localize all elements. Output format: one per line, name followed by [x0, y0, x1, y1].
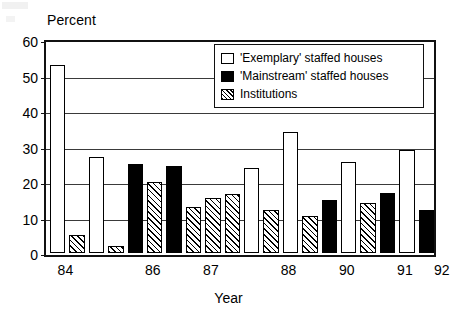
y-axis-tick-mark: [41, 184, 46, 185]
y-axis-tick-mark: [41, 113, 46, 114]
bar-mainstream: [380, 193, 396, 253]
chart-legend: 'Exemplary' staffed houses 'Mainstream' …: [214, 44, 424, 108]
bar-exemplary: [399, 150, 415, 253]
bar-institutions: [205, 198, 221, 253]
legend-item-label: Institutions: [240, 87, 297, 101]
bar-mainstream: [166, 166, 182, 253]
bar-institutions: [263, 210, 279, 253]
scan-artifact: [6, 16, 15, 22]
legend-item-label: 'Exemplary' staffed houses: [240, 51, 382, 65]
x-axis-tick-label: 92: [422, 262, 457, 278]
y-axis-tick-label: 40: [10, 106, 38, 120]
y-axis-tick-mark: [41, 255, 46, 256]
legend-item: 'Exemplary' staffed houses: [221, 49, 417, 67]
black-square-icon: [221, 71, 234, 82]
bar-institutions: [360, 203, 376, 253]
y-axis-tick-label: 20: [10, 177, 38, 191]
y-axis-tick-mark: [41, 220, 46, 221]
bar-mainstream: [419, 210, 435, 253]
scan-artifact: [2, 2, 28, 9]
y-axis-tick-label: 50: [10, 71, 38, 85]
x-axis-tick-label: 84: [45, 262, 85, 278]
bar-exemplary: [283, 132, 299, 253]
x-axis-tick-label: 88: [269, 262, 309, 278]
x-axis-tick-label: 87: [191, 262, 231, 278]
bar-institutions: [186, 207, 202, 253]
y-axis-tick-label: 0: [10, 248, 38, 262]
bar-institutions: [225, 194, 241, 253]
bar-exemplary: [89, 157, 105, 253]
bar-mainstream: [322, 200, 338, 253]
hatched-square-icon: [221, 89, 234, 100]
legend-item-label: 'Mainstream' staffed houses: [240, 69, 388, 83]
y-axis-tick-mark: [41, 42, 46, 43]
y-axis-tick-label: 10: [10, 213, 38, 227]
y-axis-tick-mark: [41, 149, 46, 150]
bar-institutions: [147, 182, 163, 253]
x-axis-title: Year: [0, 290, 457, 306]
legend-item: Institutions: [221, 85, 417, 103]
y-axis-tick-label: 60: [10, 35, 38, 49]
bar-institutions: [69, 235, 85, 253]
x-axis-tick-label: 86: [133, 262, 173, 278]
white-square-icon: [221, 53, 234, 64]
bar-chart-figure: Percent 6050403020100 84868788909192 Yea…: [0, 0, 457, 323]
bar-mainstream: [128, 164, 144, 253]
y-axis-tick-label: 30: [10, 142, 38, 156]
bar-exemplary: [244, 168, 260, 253]
x-axis-tick-label: 90: [327, 262, 367, 278]
bar-exemplary: [50, 65, 66, 253]
bar-exemplary: [341, 162, 357, 253]
y-axis-tick-mark: [41, 78, 46, 79]
bar-institutions: [108, 246, 124, 253]
x-axis-tick-label: 91: [385, 262, 425, 278]
bar-institutions: [302, 216, 318, 253]
y-axis-title: Percent: [47, 12, 96, 28]
legend-item: 'Mainstream' staffed houses: [221, 67, 417, 85]
